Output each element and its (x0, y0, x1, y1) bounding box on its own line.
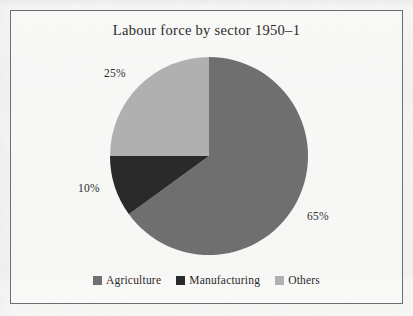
legend-label-agriculture: Agriculture (106, 274, 161, 286)
chart-title: Labour force by sector 1950–1 (0, 22, 413, 39)
pie-label-manufacturing: 10% (78, 182, 100, 194)
legend-label-manufacturing: Manufacturing (189, 274, 260, 286)
chart-legend: Agriculture Manufacturing Others (0, 274, 413, 286)
legend-item-manufacturing[interactable]: Manufacturing (176, 274, 260, 286)
legend-swatch-agriculture (93, 276, 102, 285)
legend-swatch-others (275, 276, 284, 285)
legend-swatch-manufacturing (176, 276, 185, 285)
legend-label-others: Others (288, 274, 320, 286)
legend-item-agriculture[interactable]: Agriculture (93, 274, 161, 286)
pie-label-agriculture: 65% (307, 210, 329, 222)
pie-chart (110, 57, 308, 255)
pie-label-others: 25% (104, 67, 126, 79)
legend-item-others[interactable]: Others (275, 274, 320, 286)
